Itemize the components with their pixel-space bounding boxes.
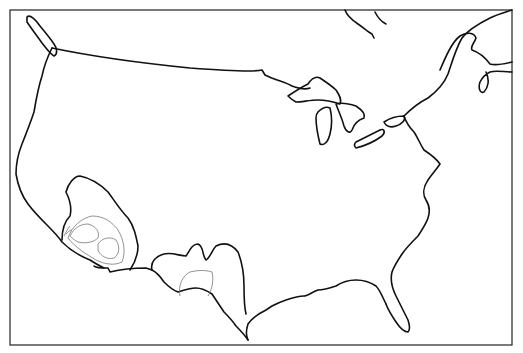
gulf-coast: [247, 280, 387, 340]
lake-michigan: [316, 107, 332, 144]
lake-ontario: [384, 116, 405, 127]
pacific-coast: [16, 48, 104, 268]
nova-scotia: [479, 71, 512, 92]
vancouver-island: [27, 16, 57, 56]
lake-erie: [355, 129, 385, 148]
st-lawrence-coast: [404, 10, 512, 116]
lake-superior: [288, 77, 341, 104]
lake-huron: [336, 103, 365, 132]
atlantic-coast: [386, 116, 440, 332]
northern-border: [52, 48, 310, 89]
map-canvas: [0, 0, 523, 353]
contour-region-southwest: [62, 176, 138, 270]
contour-region-south-central: [152, 244, 246, 314]
mexico-border: [94, 266, 248, 340]
hudson-bay-coast: [345, 10, 386, 38]
